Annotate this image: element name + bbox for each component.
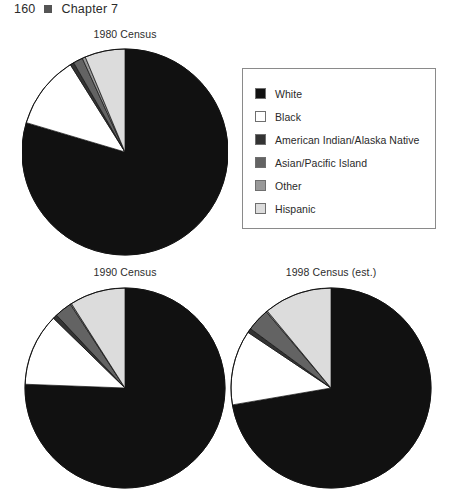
- pie-svg-1990: [22, 286, 228, 490]
- legend-label-white: White: [275, 88, 302, 100]
- page-number: 160: [14, 2, 35, 16]
- legend-label-hispanic: Hispanic: [275, 203, 316, 215]
- legend-item-asian: Asian/Pacific Island: [255, 151, 435, 174]
- pie-chart-1998: [228, 286, 434, 490]
- legend-label-black: Black: [275, 111, 301, 123]
- pie-svg-1998: [228, 286, 434, 490]
- chart-title-1980: 1980 Census: [22, 28, 228, 40]
- legend-swatch-other: [255, 180, 266, 191]
- square-bullet-icon: [44, 5, 52, 13]
- legend-item-other: Other: [255, 174, 435, 197]
- chart-panel-1990: 1990 Census: [22, 266, 228, 490]
- legend-label-american-indian: American Indian/Alaska Native: [275, 134, 419, 146]
- chapter-label: Chapter 7: [61, 2, 118, 16]
- legend-swatch-asian: [255, 157, 266, 168]
- legend-item-hispanic: Hispanic: [255, 197, 435, 220]
- legend-label-other: Other: [275, 180, 302, 192]
- legend-swatch-black: [255, 111, 266, 122]
- chart-panel-1998: 1998 Census (est.): [228, 266, 434, 490]
- legend-swatch-hispanic: [255, 203, 266, 214]
- chart-panel-1980: 1980 Census: [22, 28, 228, 258]
- chart-legend: White Black American Indian/Alaska Nativ…: [242, 68, 436, 229]
- legend-item-black: Black: [255, 105, 435, 128]
- page-header: 160 Chapter 7: [14, 2, 118, 16]
- legend-item-white: White: [255, 82, 435, 105]
- legend-swatch-white: [255, 88, 266, 99]
- chart-title-1998: 1998 Census (est.): [228, 266, 434, 278]
- pie-svg-1980: [22, 47, 228, 257]
- pie-chart-1990: [22, 286, 228, 490]
- legend-item-american-indian: American Indian/Alaska Native: [255, 128, 435, 151]
- legend-swatch-american-indian: [255, 134, 266, 145]
- legend-label-asian: Asian/Pacific Island: [275, 157, 367, 169]
- pie-chart-1980: [22, 47, 228, 257]
- chart-title-1990: 1990 Census: [22, 266, 228, 278]
